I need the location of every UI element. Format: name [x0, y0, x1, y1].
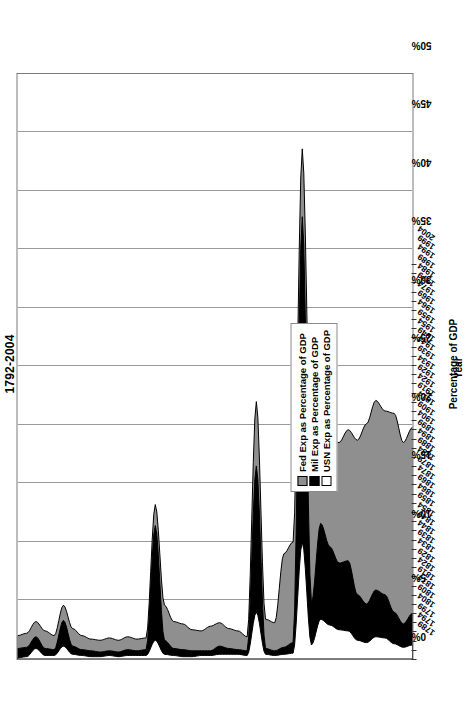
legend-swatch-fed-icon [297, 476, 307, 486]
plot-area [16, 73, 413, 660]
legend-swatch-mil-icon [309, 476, 319, 486]
legend-label-mil: Mil Exp as Percentage of GDP [308, 337, 319, 472]
legend-item-fed: Fed Exp as Percentage of GDP [296, 330, 307, 486]
chart-page: 1792-2004 0%5%10%15%20%25%30%35%40%45%50… [0, 0, 467, 728]
legend-swatch-usn-icon [321, 476, 331, 486]
legend-label-usn: USN Exp as Percentage of GDP [320, 330, 331, 472]
y-tick-label: 50% [411, 40, 431, 51]
legend-label-fed: Fed Exp as Percentage of GDP [296, 333, 307, 472]
legend-item-usn: USN Exp as Percentage of GDP [320, 330, 331, 486]
x-axis-title: Year [452, 308, 463, 428]
x-axis-tick-labels: 1789179417991804180918141819182418291834… [413, 75, 453, 660]
chart-legend: Fed Exp as Percentage of GDP Mil Exp as … [290, 323, 337, 492]
series-areas [17, 74, 412, 659]
chart-title: 1792-2004 [2, 0, 16, 728]
legend-item-mil: Mil Exp as Percentage of GDP [308, 330, 319, 486]
